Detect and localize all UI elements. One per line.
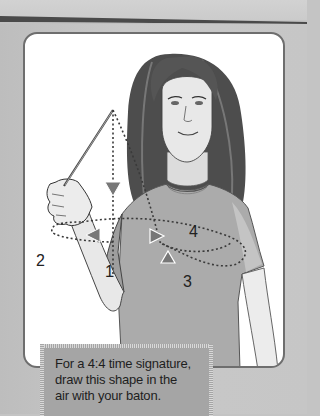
arrow-down-icon [105, 182, 121, 196]
caption-perforated-edge [40, 344, 44, 416]
hand [47, 179, 92, 226]
caption-line: air with your baton. [55, 388, 203, 404]
conductor-illustration: 1 2 3 4 [25, 34, 285, 368]
beat-label-1: 1 [105, 263, 114, 280]
caption-box: For a 4:4 time signature, draw this shap… [40, 344, 213, 416]
illustration-panel: 1 2 3 4 [23, 32, 285, 368]
beat-label-2: 2 [36, 252, 45, 269]
beat-label-3: 3 [183, 273, 192, 290]
caption-line: draw this shape in the [55, 372, 203, 388]
caption-text: For a 4:4 time signature, draw this shap… [55, 356, 203, 404]
caption-line: For a 4:4 time signature, [55, 356, 203, 372]
beat-label-4: 4 [189, 223, 198, 240]
left-arm [242, 268, 278, 368]
face [162, 77, 212, 163]
